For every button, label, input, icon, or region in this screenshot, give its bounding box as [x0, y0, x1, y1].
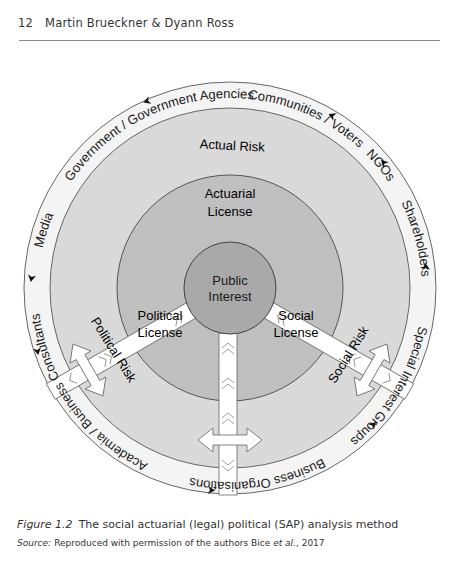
- public-interest-circle: [184, 242, 276, 334]
- figure-caption-text: The social actuarial (legal) political (…: [79, 518, 399, 531]
- public-interest-label-2: Interest: [208, 289, 252, 304]
- source-text: Reproduced with permission of the author…: [54, 538, 270, 548]
- actuarial-license-label-2: License: [208, 204, 253, 219]
- figure-label: Figure 1.2: [17, 518, 73, 531]
- figure-caption: Figure 1.2The social actuarial (legal) p…: [17, 518, 398, 531]
- sap-diagram: Public Interest Actuarial License Politi…: [0, 0, 459, 579]
- public-interest-label-1: Public: [212, 273, 248, 288]
- source-year: , 2017: [296, 538, 325, 548]
- source-etal: et al.: [273, 538, 296, 548]
- political-license-label-2: License: [138, 325, 183, 340]
- social-license-label-2: License: [274, 325, 319, 340]
- figure-source: Source:Reproduced with permission of the…: [17, 538, 325, 548]
- political-license-label-1: Political: [138, 308, 183, 323]
- source-label: Source:: [17, 538, 51, 548]
- actuarial-license-label-1: Actuarial: [205, 186, 256, 201]
- social-license-label-1: Social: [278, 308, 314, 323]
